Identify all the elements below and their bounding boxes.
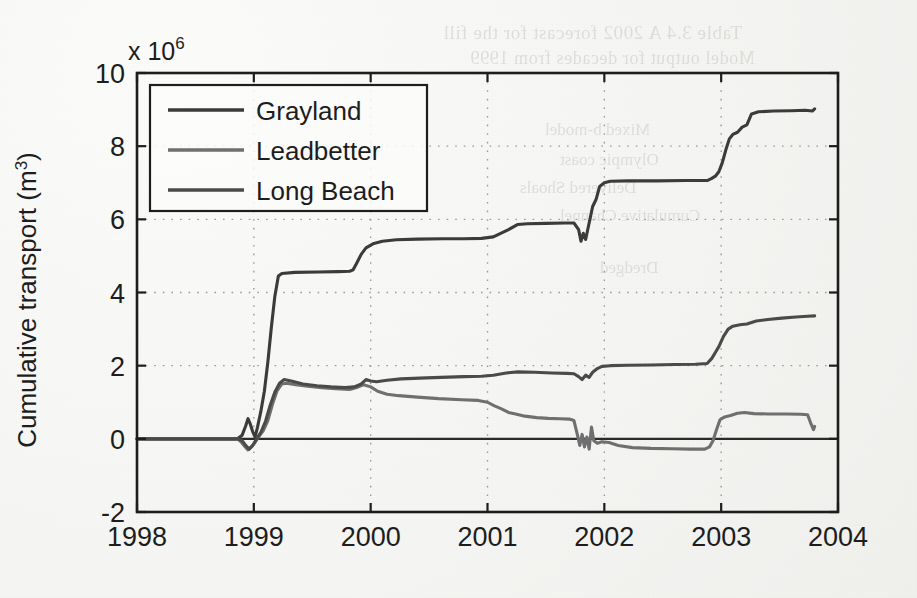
y-axis-label-tail: ) (12, 152, 42, 161)
y-axis-multiplier: x 106 (128, 34, 185, 65)
y-tick-label: -2 (101, 498, 125, 528)
y-axis-multiplier-exponent: 6 (175, 34, 184, 53)
y-axis-label-superscript: 3 (12, 161, 31, 170)
legend-label-grayland: Grayland (256, 96, 362, 126)
x-tick-label: 1999 (224, 522, 284, 552)
y-axis-label: Cumulative transport (m3) (12, 152, 42, 448)
series-line-long-beach (137, 316, 815, 449)
legend-label-leadbetter: Leadbetter (256, 136, 381, 166)
x-tick-label: 2002 (574, 522, 634, 552)
y-axis-multiplier-base: x 10 (128, 37, 175, 65)
y-tick-label: 0 (110, 425, 125, 455)
legend-label-long-beach: Long Beach (256, 176, 395, 206)
y-tick-label: 8 (110, 132, 125, 162)
x-tick-label: 2003 (691, 522, 751, 552)
y-tick-label: 4 (110, 279, 125, 309)
x-tick-label: 2000 (341, 522, 401, 552)
x-tick-label: 2004 (808, 522, 868, 552)
y-axis-label-main: Cumulative transport (m (12, 170, 42, 447)
chart-figure: 1998199920002001200220032004 -20246810 C… (0, 0, 917, 598)
y-tick-label: 2 (110, 352, 125, 382)
chart-legend[interactable]: GraylandLeadbetterLong Beach (150, 85, 427, 211)
x-tick-label: 2001 (457, 522, 517, 552)
x-axis-tick-labels: 1998199920002001200220032004 (107, 522, 868, 552)
y-tick-label: 6 (110, 205, 125, 235)
y-axis-tick-labels: -20246810 (95, 59, 125, 528)
chart-svg: 1998199920002001200220032004 -20246810 C… (0, 0, 917, 598)
y-tick-label: 10 (95, 59, 125, 89)
